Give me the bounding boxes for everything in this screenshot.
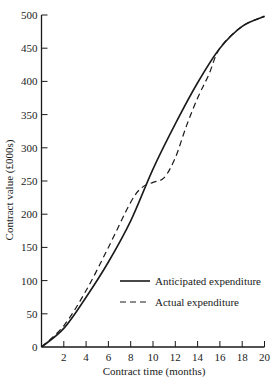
y-tick-label: 400 — [21, 75, 38, 87]
y-axis-title: Contract value (£000s) — [3, 139, 16, 240]
x-axis-title: Contract time (months) — [103, 365, 206, 378]
x-tick-label: 4 — [83, 351, 89, 363]
y-tick-label: 0 — [32, 341, 38, 353]
y-tick-label: 500 — [21, 9, 38, 21]
y-tick-label: 450 — [21, 42, 38, 54]
y-tick-label: 350 — [21, 109, 38, 121]
y-tick-label: 50 — [27, 308, 39, 320]
x-tick-label: 10 — [148, 351, 160, 363]
legend-label: Anticipated expenditure — [155, 275, 261, 287]
legend: Anticipated expenditureActual expenditur… — [120, 275, 261, 308]
y-tick-label: 200 — [21, 208, 38, 220]
x-tick-label: 6 — [106, 351, 112, 363]
expenditure-chart: 050100150200250300350400450500 246810121… — [0, 0, 275, 385]
x-tick-label: 16 — [214, 351, 226, 363]
x-axis: 2468101214161820 — [42, 341, 271, 363]
y-axis: 050100150200250300350400450500 — [21, 9, 48, 353]
x-tick-label: 8 — [128, 351, 134, 363]
y-tick-label: 100 — [21, 275, 38, 287]
x-tick-label: 14 — [192, 351, 204, 363]
x-tick-label: 18 — [237, 351, 249, 363]
y-tick-label: 300 — [21, 142, 38, 154]
x-tick-label: 12 — [170, 351, 181, 363]
y-tick-label: 150 — [21, 241, 38, 253]
y-tick-label: 250 — [21, 175, 38, 187]
x-tick-label: 2 — [61, 351, 67, 363]
legend-label: Actual expenditure — [155, 296, 239, 308]
x-tick-label: 20 — [259, 351, 271, 363]
